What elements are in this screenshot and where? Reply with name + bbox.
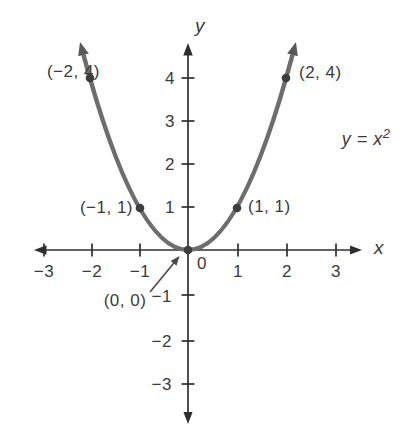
x-axis-label: x — [374, 238, 384, 257]
point-dot-2-4 — [282, 74, 291, 83]
y-tick-label-neg1: −1 — [152, 288, 172, 305]
y-tick-label-3: 3 — [165, 113, 175, 130]
origin-label: 0 — [197, 255, 207, 272]
point-dot-0-0 — [184, 246, 193, 255]
y-tick-label-2: 2 — [165, 156, 175, 173]
y-tick-label-4: 4 — [165, 70, 175, 87]
x-tick-label-neg3: −3 — [34, 263, 54, 280]
point-dot-1-1 — [233, 204, 242, 213]
equation-base: y = x — [342, 129, 383, 149]
parabola-figure: y x −3 −2 −1 1 2 3 0 4 3 2 1 −1 −2 −3 (−… — [0, 0, 407, 443]
x-tick-label-2: 2 — [282, 263, 292, 280]
point-label-neg2-4: (−2, 4) — [47, 63, 100, 80]
x-tick-label-neg2: −2 — [82, 263, 102, 280]
x-tick-label-3: 3 — [331, 263, 341, 280]
y-axis-label: y — [195, 16, 205, 35]
point-label-2-4: (2, 4) — [299, 64, 342, 81]
point-label-neg1-1: (−1, 1) — [80, 199, 133, 216]
point-label-1-1: (1, 1) — [248, 198, 291, 215]
y-tick-label-1: 1 — [165, 199, 175, 216]
y-tick-label-neg2: −2 — [152, 333, 172, 350]
equation-label: y = x2 — [342, 130, 391, 148]
equation-exponent: 2 — [383, 126, 391, 141]
x-tick-label-1: 1 — [233, 263, 243, 280]
point-label-0-0: (0, 0) — [104, 292, 147, 309]
x-tick-label-neg1: −1 — [130, 263, 150, 280]
y-tick-label-neg3: −3 — [152, 376, 172, 393]
point-dot-neg1-1 — [136, 204, 145, 213]
